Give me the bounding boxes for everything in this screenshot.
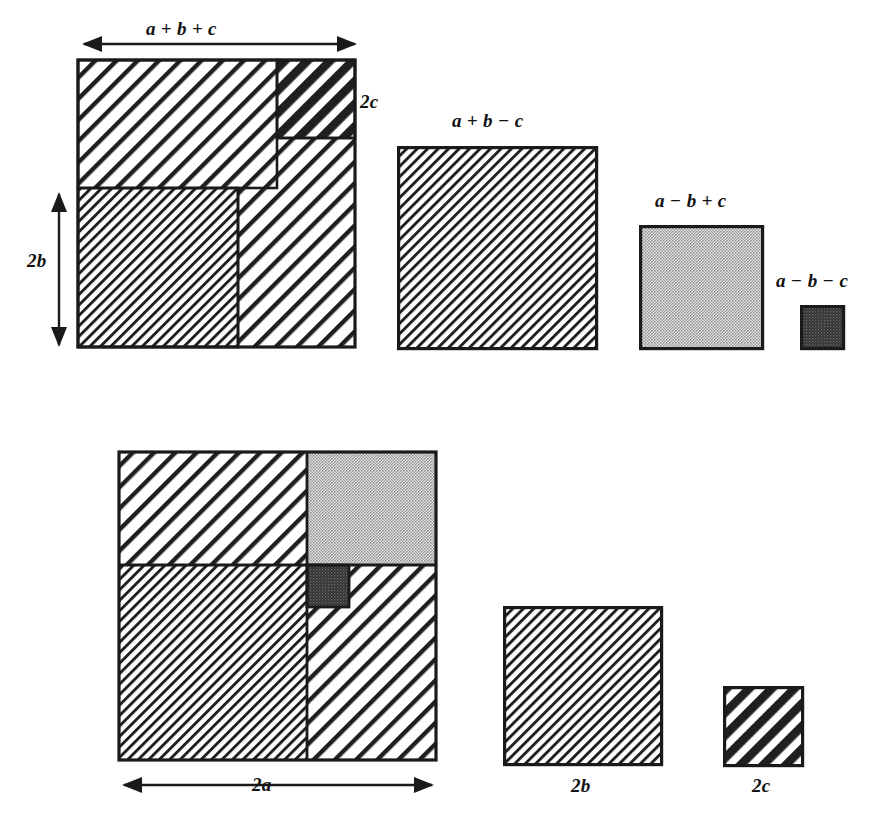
region-bottom-right-sparse bbox=[238, 188, 355, 347]
region-right-mid-sparse bbox=[277, 138, 355, 188]
region-bl-q3-dense bbox=[119, 565, 307, 760]
region-bl-q2-dots bbox=[307, 452, 436, 565]
figure-bottom-left-composite bbox=[100, 440, 460, 810]
label-corner-2c: 2c bbox=[360, 91, 379, 113]
bottom-composite-regions bbox=[119, 452, 436, 760]
region-top-right-bold bbox=[277, 60, 355, 138]
composite-regions bbox=[78, 60, 355, 347]
arrow-top-width bbox=[82, 36, 357, 52]
square-a-minus-b-plus-c-fill bbox=[641, 227, 763, 349]
figure-square-a-plus-b-minus-c bbox=[397, 146, 599, 351]
region-bl-q1-sparse bbox=[119, 452, 307, 565]
figure-square-2b bbox=[503, 606, 664, 767]
label-square-a-plus-b-minus-c: a + b − c bbox=[452, 110, 523, 132]
label-top-width: a + b + c bbox=[146, 18, 217, 40]
square-2b-fill bbox=[505, 608, 662, 765]
figure-square-a-minus-b-plus-c bbox=[639, 225, 765, 351]
label-bottom-width: 2a bbox=[252, 774, 272, 796]
figure-square-a-minus-b-minus-c bbox=[800, 305, 846, 351]
label-square-2c: 2c bbox=[752, 775, 771, 797]
region-top-left-sparse bbox=[78, 60, 277, 188]
figure-square-2c bbox=[723, 686, 805, 768]
label-square-a-minus-b-plus-c: a − b + c bbox=[655, 190, 726, 212]
figure-top-left-composite bbox=[40, 28, 380, 358]
arrow-left-height bbox=[51, 192, 67, 347]
label-square-a-minus-b-minus-c: a − b − c bbox=[776, 270, 848, 292]
label-left-height: 2b bbox=[27, 250, 47, 272]
label-square-2b: 2b bbox=[571, 775, 591, 797]
square-a-minus-b-minus-c-fill bbox=[802, 307, 844, 349]
square-2c-fill bbox=[725, 688, 803, 766]
region-bl-center-dark bbox=[307, 565, 349, 607]
arrow-bottom-width bbox=[122, 777, 434, 793]
square-a-plus-b-minus-c-fill bbox=[399, 148, 597, 349]
diagram-canvas: a + b + c 2b 2c a + b − c a − b + c a − … bbox=[0, 0, 891, 827]
region-bottom-left-dense bbox=[78, 188, 238, 347]
